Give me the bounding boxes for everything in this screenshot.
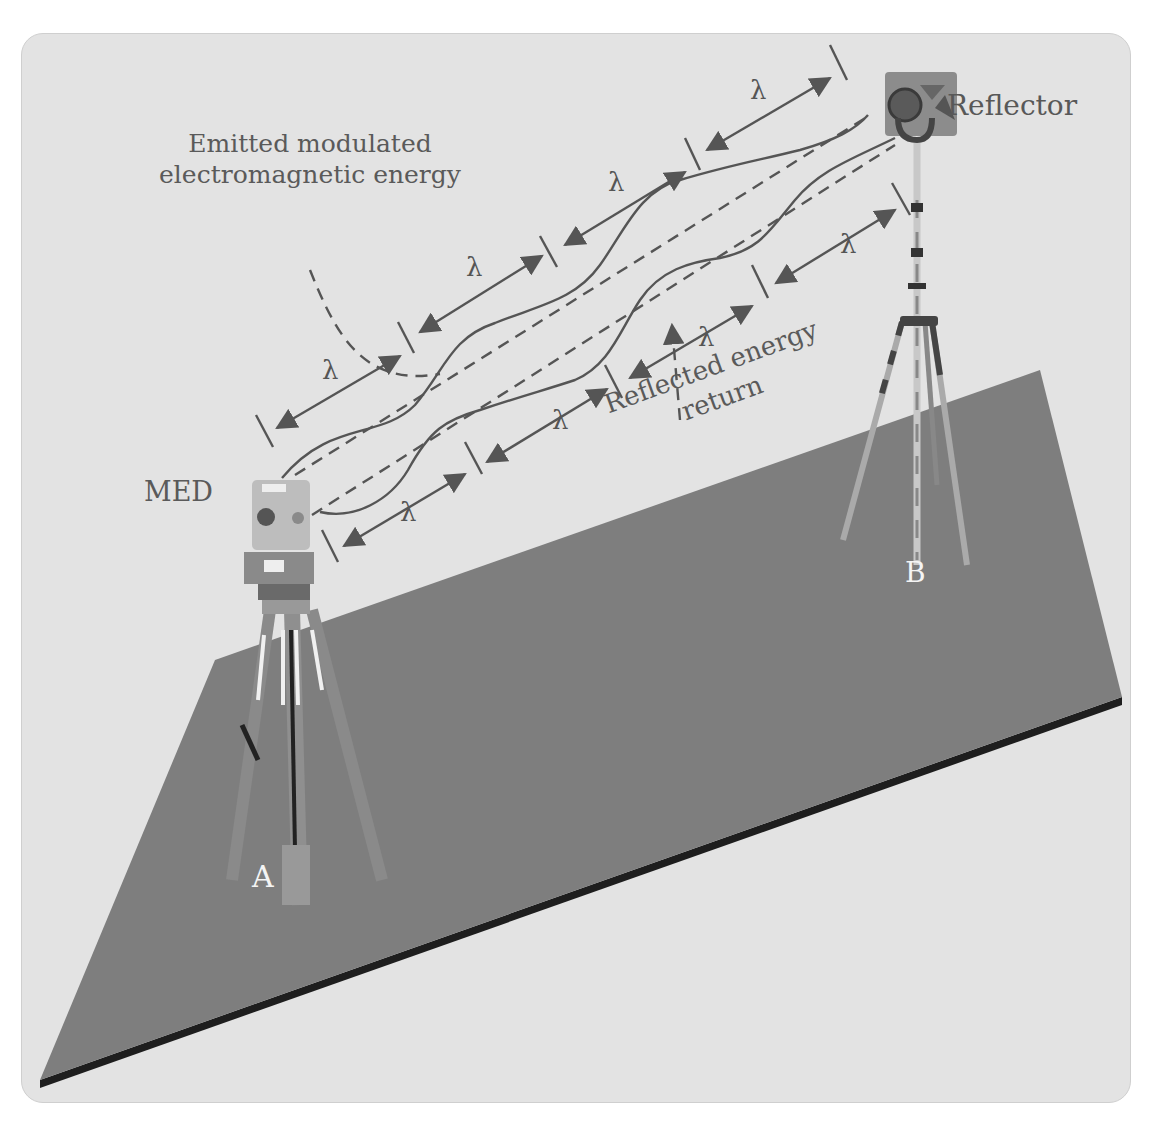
reflector-label: Reflector: [947, 88, 1077, 123]
point-b-label: B: [905, 555, 926, 590]
med-label: MED: [144, 475, 213, 509]
wavelength-symbol: λ: [608, 167, 624, 197]
emitted-label-line2: electromagnetic energy: [145, 159, 475, 190]
emitted-energy-label: Emitted modulated electromagnetic energy: [145, 128, 475, 191]
wavelength-symbol: λ: [698, 322, 714, 352]
wavelength-symbol: λ: [750, 75, 766, 105]
wavelength-symbol: λ: [466, 252, 482, 282]
emitted-label-line1: Emitted modulated: [145, 128, 475, 159]
total-station: [244, 480, 314, 614]
wavelength-symbol: λ: [840, 229, 856, 259]
wavelength-symbol: λ: [400, 497, 416, 527]
point-a-label: A: [252, 858, 274, 896]
wavelength-symbol: λ: [322, 355, 338, 385]
wavelength-symbol: λ: [552, 405, 568, 435]
